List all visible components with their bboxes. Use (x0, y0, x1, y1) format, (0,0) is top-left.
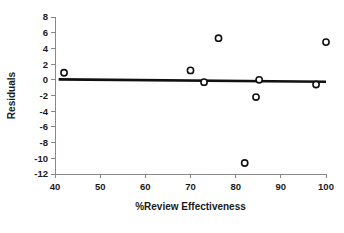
y-tick-label: -10 (34, 153, 48, 164)
data-point-marker (313, 81, 319, 87)
x-tick-label: 50 (95, 181, 106, 192)
y-tick-label: 0 (43, 74, 48, 85)
x-axis-title: %Review Effectiveness (135, 201, 246, 212)
residual-scatter-chart: 86420-2-4-6-8-10-12405060708090100%Revie… (0, 0, 344, 233)
y-tick-label: 8 (43, 11, 48, 22)
y-tick-label: -12 (34, 168, 48, 179)
y-tick-label: 2 (43, 59, 48, 70)
y-tick-label: -8 (40, 137, 48, 148)
data-point-marker (215, 35, 221, 41)
x-tick-label: 80 (230, 181, 241, 192)
y-tick-label: -4 (40, 106, 49, 117)
data-point-marker (61, 70, 67, 76)
data-point-marker (242, 160, 248, 166)
y-tick-label: 6 (43, 27, 48, 38)
chart-background (0, 0, 344, 233)
data-point-marker (187, 67, 193, 73)
data-point-marker (256, 77, 262, 83)
y-tick-label: -6 (40, 121, 48, 132)
data-point-marker (201, 79, 207, 85)
x-tick-label: 40 (50, 181, 61, 192)
x-tick-label: 60 (140, 181, 151, 192)
data-point-marker (253, 94, 259, 100)
y-tick-label: -2 (40, 90, 48, 101)
x-tick-label: 90 (276, 181, 287, 192)
y-tick-label: 4 (43, 43, 49, 54)
data-point-marker (323, 39, 329, 45)
y-axis-title: Residuals (6, 71, 17, 119)
x-tick-label: 70 (185, 181, 196, 192)
x-tick-label: 100 (318, 181, 334, 192)
